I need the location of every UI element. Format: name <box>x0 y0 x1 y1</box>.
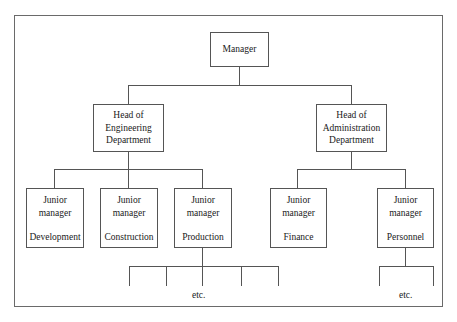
node-label-line: Engineering <box>105 122 151 135</box>
node-title-line: Junior <box>117 194 141 207</box>
node-title-line: manager <box>187 207 220 220</box>
node-dept: Production <box>182 231 224 244</box>
node-junior-development: Junior manager Development <box>26 188 84 248</box>
node-title-line: manager <box>282 207 315 220</box>
node-title-line: manager <box>389 207 422 220</box>
node-dept: Construction <box>104 231 153 244</box>
node-title-line: Junior <box>394 194 418 207</box>
etc-label-personnel: etc. <box>399 290 412 300</box>
etc-label-production: etc. <box>192 290 205 300</box>
node-label-line: Administration <box>323 122 381 135</box>
node-junior-finance: Junior manager Finance <box>270 188 327 248</box>
node-title-line: Junior <box>43 194 67 207</box>
node-dept: Personnel <box>387 231 424 244</box>
node-label-line: Department <box>106 134 151 147</box>
node-junior-construction: Junior manager Construction <box>100 188 158 248</box>
node-head-administration: Head of Administration Department <box>316 104 387 152</box>
node-dept: Finance <box>283 231 313 244</box>
node-label-line: Head of <box>113 109 143 122</box>
node-label: Manager <box>223 43 257 56</box>
node-title-line: manager <box>39 207 72 220</box>
node-junior-production: Junior manager Production <box>174 188 232 248</box>
node-manager: Manager <box>210 32 269 67</box>
node-label-line: Head of <box>336 109 366 122</box>
node-dept: Development <box>29 231 80 244</box>
node-title-line: manager <box>113 207 146 220</box>
node-title-line: Junior <box>287 194 311 207</box>
node-title-line: Junior <box>191 194 215 207</box>
node-label-line: Department <box>329 134 374 147</box>
node-junior-personnel: Junior manager Personnel <box>377 188 434 248</box>
node-head-engineering: Head of Engineering Department <box>93 104 164 152</box>
